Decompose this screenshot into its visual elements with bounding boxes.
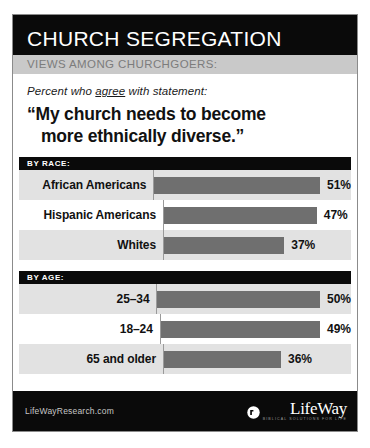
chart-rows-by-race: African Americans 51% Hispanic Americans… bbox=[19, 170, 351, 260]
lifeway-logo: LifeWay BIBLICAL SOLUTIONS FOR LIFE bbox=[247, 400, 347, 422]
question-quote: “My church needs to become more ethnical… bbox=[27, 103, 343, 147]
lifeway-tagline: BIBLICAL SOLUTIONS FOR LIFE bbox=[263, 417, 347, 422]
table-row: 25–34 50% bbox=[19, 284, 351, 314]
measure-caption: Percent who agree with statement: bbox=[27, 85, 343, 97]
bar-track: 47% bbox=[163, 200, 351, 230]
table-row: 18–24 49% bbox=[19, 314, 351, 344]
bar bbox=[164, 207, 317, 224]
row-label: 65 and older bbox=[19, 352, 163, 366]
section-band-label: BY RACE: bbox=[27, 159, 70, 168]
quote-block: Percent who agree with statement: “My ch… bbox=[13, 74, 357, 153]
page-title: CHURCH SEGREGATION bbox=[27, 27, 343, 50]
table-row: 65 and older 36% bbox=[19, 344, 351, 374]
bar-track: 51% bbox=[153, 170, 351, 200]
row-label: African Americans bbox=[19, 178, 153, 192]
bar-value-label: 47% bbox=[324, 208, 348, 222]
bar-value-label: 49% bbox=[327, 322, 351, 336]
subtitle-band: VIEWS AMONG CHURCHGOERS: bbox=[13, 55, 357, 74]
row-label: 18–24 bbox=[19, 322, 160, 336]
bar-track: 37% bbox=[163, 230, 351, 260]
row-label: Hispanic Americans bbox=[19, 208, 163, 222]
bar-track: 49% bbox=[160, 314, 351, 344]
infographic-card: CHURCH SEGREGATION VIEWS AMONG CHURCHGOE… bbox=[12, 14, 358, 432]
bar bbox=[161, 321, 320, 338]
measure-caption-suffix: with statement: bbox=[125, 85, 207, 97]
question-quote-line-2: more ethnically diverse.” bbox=[27, 125, 343, 147]
table-row: Whites 37% bbox=[19, 230, 351, 260]
bar-value-label: 37% bbox=[291, 238, 315, 252]
table-row: African Americans 51% bbox=[19, 170, 351, 200]
bar bbox=[157, 291, 320, 308]
table-row: Hispanic Americans 47% bbox=[19, 200, 351, 230]
bar bbox=[164, 237, 284, 254]
subtitle-text: VIEWS AMONG CHURCHGOERS: bbox=[27, 57, 343, 71]
bar bbox=[164, 351, 281, 368]
measure-caption-prefix: Percent who bbox=[27, 85, 95, 97]
bar-value-label: 50% bbox=[327, 292, 351, 306]
footer-url[interactable]: LifeWayResearch.com bbox=[25, 406, 114, 416]
footer: LifeWayResearch.com LifeWay BIBLICAL SOL… bbox=[13, 391, 357, 431]
lifeway-wordmark: LifeWay BIBLICAL SOLUTIONS FOR LIFE bbox=[263, 400, 347, 422]
section-band-by-race: BY RACE: bbox=[19, 157, 351, 170]
bar-value-label: 51% bbox=[327, 178, 351, 192]
bar-track: 36% bbox=[163, 344, 351, 374]
chart-rows-by-age: 25–34 50% 18–24 49% 65 and older 36% bbox=[19, 284, 351, 374]
header: CHURCH SEGREGATION bbox=[13, 15, 357, 55]
section-band-by-age: BY AGE: bbox=[19, 271, 351, 284]
row-label: 25–34 bbox=[19, 292, 156, 306]
row-label: Whites bbox=[19, 238, 163, 252]
question-quote-line-1: “My church needs to become bbox=[27, 104, 266, 124]
bar-track: 50% bbox=[156, 284, 351, 314]
bar-value-label: 36% bbox=[288, 352, 312, 366]
section-band-label: BY AGE: bbox=[27, 273, 64, 282]
bar bbox=[154, 177, 320, 194]
lifeway-name: LifeWay bbox=[290, 400, 347, 417]
lifeway-circle-icon bbox=[247, 405, 260, 418]
measure-caption-emphasis: agree bbox=[95, 85, 125, 97]
section-spacer bbox=[13, 260, 357, 267]
